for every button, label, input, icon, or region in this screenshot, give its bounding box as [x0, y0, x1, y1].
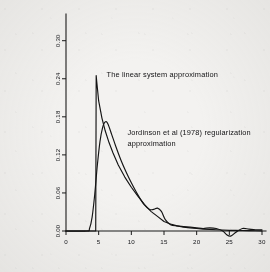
x-tick-label: 0: [64, 238, 68, 245]
annot-linear-system: The linear system approximation: [107, 70, 218, 79]
y-tick-label: 0.06: [54, 186, 61, 199]
x-tick-label: 30: [258, 238, 266, 245]
x-tick-label: 10: [128, 238, 136, 245]
x-tick-label: 15: [160, 238, 168, 245]
y-tick-label: 0.00: [54, 224, 61, 237]
series-line-0: [66, 76, 262, 231]
x-tick-label: 25: [226, 238, 234, 245]
annot-jordinson-line1: Jordinson et al (1978) regularization: [127, 128, 250, 137]
figure-canvas: 051015202530 0.000.060.120.180.240.30 Th…: [0, 0, 270, 272]
x-tick-label: 5: [97, 238, 101, 245]
annot-jordinson-line2: approximation: [127, 139, 175, 148]
y-tick-label: 0.12: [54, 148, 61, 161]
x-tick-label: 20: [193, 238, 201, 245]
y-tick-group: [62, 41, 66, 231]
y-tick-label: 0.18: [54, 110, 61, 123]
y-tick-label: 0.24: [54, 72, 61, 85]
annotation-group: The linear system approximationJordinson…: [107, 70, 251, 148]
chart-plot: 051015202530 0.000.060.120.180.240.30 Th…: [0, 0, 270, 272]
data-series-group: [66, 76, 262, 237]
y-tick-label-group: 0.000.060.120.180.240.30: [54, 34, 61, 237]
x-tick-label-group: 051015202530: [64, 238, 266, 245]
y-tick-label: 0.30: [54, 34, 61, 47]
